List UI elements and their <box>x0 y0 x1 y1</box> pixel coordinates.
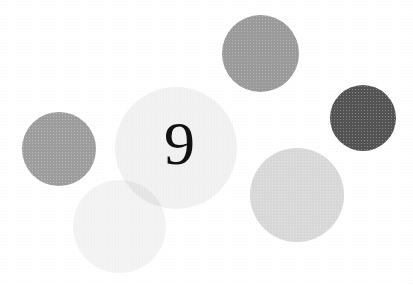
numeral-nine: 9 <box>164 112 195 174</box>
left-medium-gray-circle <box>22 112 96 186</box>
bottom-right-light-gray-circle <box>250 148 344 242</box>
right-dark-gray-circle <box>330 85 396 151</box>
artwork-canvas: 9 <box>0 0 413 285</box>
top-medium-gray-circle <box>222 15 299 92</box>
bottom-left-pale-circle <box>73 180 166 273</box>
